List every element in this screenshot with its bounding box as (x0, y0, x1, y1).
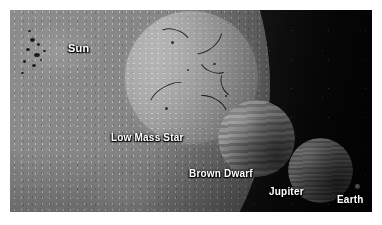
label-earth: Earth (337, 194, 364, 205)
astronomy-image-plate: Sun Low Mass Star Brown Dwarf Jupiter Ea… (10, 10, 372, 212)
label-brown-dwarf: Brown Dwarf (189, 168, 253, 179)
sunspot (37, 43, 40, 46)
brown-dwarf-sphere-icon (218, 100, 295, 177)
sunspot (34, 53, 40, 57)
label-low-mass-star: Low Mass Star (111, 132, 184, 143)
star-surface-spot (213, 63, 216, 65)
label-jupiter: Jupiter (269, 186, 304, 197)
sunspot (40, 59, 42, 61)
label-sun: Sun (68, 42, 89, 54)
star-surface-spot (187, 69, 189, 71)
sunspot (28, 30, 31, 32)
star-surface-spot (165, 107, 168, 110)
sunspot (23, 60, 26, 63)
star-surface-spot (225, 95, 227, 97)
earth-dot-icon (355, 184, 360, 189)
sunspot (26, 48, 30, 51)
brown-dwarf-shading (218, 100, 295, 177)
sunspot (43, 50, 46, 52)
sunspot (32, 64, 36, 67)
sunspot (30, 38, 35, 42)
size-comparison-figure: Sun Low Mass Star Brown Dwarf Jupiter Ea… (0, 0, 382, 225)
star-surface-spot (171, 41, 174, 44)
sunspot (21, 72, 24, 74)
